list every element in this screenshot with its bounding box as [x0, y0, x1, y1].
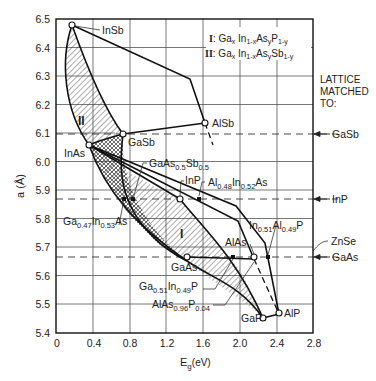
- y-axis-title: a (Å): [14, 174, 26, 198]
- region-I-label: I: [180, 227, 183, 241]
- point-alas: [251, 254, 257, 260]
- svg-text:InP: InP: [332, 193, 348, 205]
- point-al048in052as: [197, 197, 201, 201]
- svg-text:5.4: 5.4: [35, 327, 50, 339]
- svg-text:5.5: 5.5: [35, 298, 50, 310]
- svg-text:0.8: 0.8: [123, 337, 138, 349]
- svg-text:6.2: 6.2: [35, 99, 50, 111]
- svg-text:InSb: InSb: [102, 24, 124, 36]
- svg-text:5.7: 5.7: [35, 241, 50, 253]
- point-alsb: [202, 120, 208, 126]
- svg-text:GaP: GaP: [241, 312, 262, 324]
- svg-text:6.0: 6.0: [35, 156, 50, 168]
- svg-text:InP: InP: [185, 174, 201, 186]
- svg-text:TO:: TO:: [320, 98, 336, 109]
- svg-text:0.4: 0.4: [87, 337, 102, 349]
- svg-text:5.6: 5.6: [35, 270, 50, 282]
- svg-text:LATTICE: LATTICE: [320, 74, 361, 85]
- label-gaas05sb05: GaAs0.5Sb0.5: [149, 157, 209, 172]
- label-ga047in053as: Ga0.47In0.53As: [63, 215, 127, 230]
- lattice-matched-heading: LATTICE MATCHED TO:: [320, 74, 369, 109]
- svg-text:5.8: 5.8: [35, 213, 50, 225]
- point-insb: [69, 22, 75, 28]
- svg-text:0: 0: [54, 337, 60, 349]
- label-alas096p004: AlAs0.96P0.04: [152, 298, 210, 313]
- svg-text:1.2: 1.2: [160, 337, 175, 349]
- svg-text:AlP: AlP: [284, 307, 300, 319]
- point-gaas: [184, 254, 190, 260]
- point-in051al049p: [266, 255, 270, 259]
- point-alp: [276, 310, 282, 316]
- region-II-fill: [65, 25, 123, 145]
- svg-text:6.1: 6.1: [35, 127, 50, 139]
- x-axis-title: Eg(eV): [180, 356, 211, 371]
- svg-text:InAs: InAs: [64, 147, 85, 159]
- svg-text:AlAs: AlAs: [225, 236, 247, 248]
- reference-arrows: [314, 132, 330, 260]
- point-ga051in049p: [231, 255, 235, 259]
- reference-labels: GaSb InP ZnSe GaAs: [331, 128, 359, 263]
- label-al048in052as: Al0.48In0.52As: [208, 176, 268, 191]
- point-inas: [86, 142, 92, 148]
- svg-text:GaSb: GaSb: [332, 128, 359, 140]
- svg-text:AlSb: AlSb: [212, 117, 234, 129]
- y-tick-labels: 5.4 5.5 5.6 5.7 5.8 5.9 6.0 6.1 6.2 6.3 …: [35, 13, 50, 339]
- svg-text:2.8: 2.8: [307, 337, 322, 349]
- svg-text:GaAs: GaAs: [171, 261, 197, 273]
- svg-text:6.4: 6.4: [35, 42, 50, 54]
- svg-text:6.5: 6.5: [35, 13, 50, 25]
- region-II-label: II: [78, 114, 85, 128]
- compound-labels: InSb InAs GaSb AlSb InP GaAs AlAs GaP Al…: [64, 24, 300, 324]
- svg-text:5.9: 5.9: [35, 184, 50, 196]
- svg-text:GaSb: GaSb: [128, 136, 155, 148]
- svg-text:MATCHED: MATCHED: [320, 86, 369, 97]
- svg-text:2.4: 2.4: [270, 337, 285, 349]
- lattice-bandgap-chart: 5.4 5.5 5.6 5.7 5.8 5.9 6.0 6.1 6.2 6.3 …: [0, 0, 376, 381]
- point-inp: [177, 196, 183, 202]
- svg-text:2.0: 2.0: [233, 337, 248, 349]
- svg-text:ZnSe: ZnSe: [331, 235, 356, 247]
- x-tick-labels: 0 0.4 0.8 1.2 1.6 2.0 2.4 2.8: [54, 337, 321, 349]
- svg-text:1.6: 1.6: [196, 337, 211, 349]
- point-gasb: [120, 131, 126, 137]
- label-ga051in049p: Ga0.51In0.49P: [139, 280, 198, 295]
- svg-text:GaAs: GaAs: [332, 251, 358, 263]
- znse-leader: [313, 241, 328, 251]
- svg-text:6.3: 6.3: [35, 70, 50, 82]
- label-in051al049p: In0.51Al0.49P: [249, 219, 303, 234]
